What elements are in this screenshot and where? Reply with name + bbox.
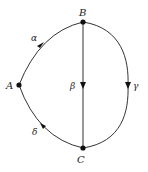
graph-svg: A B C α β γ δ: [0, 0, 148, 172]
edge-alpha: [19, 22, 83, 85]
vertex-a: [16, 82, 21, 87]
vertex-label-b: B: [78, 7, 86, 18]
vertex-label-c: C: [77, 154, 85, 165]
edge-label-beta: β: [69, 81, 75, 91]
vertex-c: [80, 145, 85, 150]
arrow-beta-icon: [80, 82, 86, 89]
vertex-b: [80, 19, 85, 24]
edge-label-delta: δ: [32, 127, 37, 137]
vertex-label-a: A: [5, 80, 13, 91]
edge-label-gamma: γ: [133, 81, 139, 91]
edge-label-alpha: α: [31, 33, 37, 43]
graph-diagram: A B C α β γ δ: [0, 0, 148, 172]
arrow-gamma-icon: [125, 82, 131, 89]
edge-gamma: [83, 22, 128, 148]
edge-delta: [19, 85, 83, 148]
